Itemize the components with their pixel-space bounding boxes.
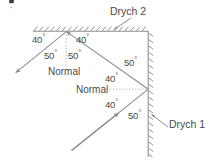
normal-right-label: Normal [76, 84, 108, 95]
optics-ray-diagram: Drych 2 Drych 1 40° 40° 50° 50° Normal 5… [0, 0, 206, 161]
leader-line-drych2 [114, 18, 131, 30]
clipped-mark-icon [9, 0, 14, 8]
mirror-top-label: Drych 2 [110, 6, 146, 17]
angle-right-lower-normal: 40° [105, 99, 118, 110]
mirror-right-label-text: Drych 1 [169, 118, 205, 130]
degree-symbol: ° [86, 32, 89, 41]
mirror-top-label-text: Drych 2 [110, 5, 146, 17]
leader-line-drych1 [152, 115, 168, 128]
degree-symbol: ° [138, 108, 141, 117]
normal-top-label: Normal [48, 66, 80, 77]
angle-normal-left: 50° [44, 50, 57, 61]
degree-symbol: ° [54, 48, 57, 57]
mirror-right-hatching [148, 33, 153, 157]
angle-right-upper-normal: 40° [105, 73, 118, 84]
mirror-right-label: Drych 1 [169, 119, 205, 130]
mirror-top-hatching [34, 27, 146, 31]
mirror-top-surface [33, 27, 148, 32]
angle-right-upper-surface: 50° [124, 57, 137, 68]
angle-top-right: 40° [76, 34, 89, 45]
angle-top-left: 40° [32, 34, 45, 45]
angle-right-lower-surface: 50° [128, 110, 141, 121]
mirror-right-surface [148, 31, 153, 157]
angle-normal-right: 50° [68, 50, 81, 61]
degree-symbol: ° [42, 32, 45, 41]
diagram-canvas [0, 0, 206, 161]
degree-symbol: ° [78, 48, 81, 57]
degree-symbol: ° [115, 71, 118, 80]
degree-symbol: ° [115, 97, 118, 106]
degree-symbol: ° [134, 55, 137, 64]
